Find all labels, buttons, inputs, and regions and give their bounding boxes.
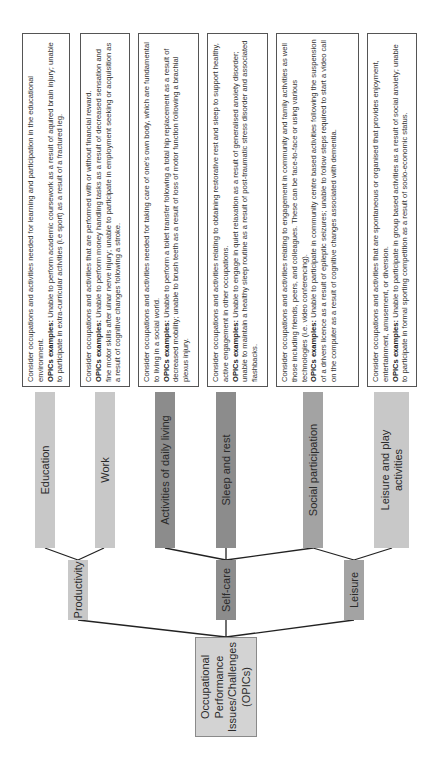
root-label: Occupational Performance Issues/Challeng… — [199, 641, 253, 733]
occupation-label: Sleep and rest — [220, 435, 233, 506]
link-productivity-education — [45, 548, 78, 560]
description-text: Consider occupations and activities rela… — [280, 43, 309, 382]
examples-label: OPICs examples: — [309, 320, 318, 382]
occupation-work: Work — [95, 392, 115, 548]
description-text: Consider occupations and activities need… — [142, 42, 161, 382]
link-leisure-social — [313, 548, 354, 560]
occupation-label: Activities of daily living — [159, 415, 172, 524]
occupation-sleep-rest: Sleep and rest — [216, 392, 236, 548]
examples-label: OPICs examples: — [391, 320, 400, 382]
description-box-work: Consider occupations and activities that… — [80, 33, 130, 387]
domain-productivity: Productivity — [68, 560, 88, 620]
occupation-label: Education — [39, 446, 52, 495]
examples-label: OPICs examples: — [162, 320, 171, 382]
link-root-productivity — [78, 620, 226, 637]
description-box-adl: Consider occupations and activities need… — [138, 33, 199, 387]
occupation-label: Work — [99, 457, 112, 482]
description-box-leisure-play: Consider occupations and activities that… — [367, 33, 417, 387]
link-leisure-play — [354, 548, 392, 560]
occupation-adl: Activities of daily living — [155, 392, 175, 548]
domain-label: Leisure — [348, 572, 361, 608]
description-box-education: Consider occupations and activities need… — [22, 33, 70, 387]
link-selfcare-social — [226, 548, 313, 560]
domain-leisure: Leisure — [344, 560, 364, 620]
description-box-social-participation: Consider occupations and activities rela… — [276, 33, 359, 387]
domain-label: Self-care — [220, 568, 233, 612]
description-text: Consider occupations and activities that… — [371, 60, 390, 382]
link-root-leisure — [226, 620, 354, 637]
occupation-label: Social participation — [307, 424, 320, 516]
occupation-leisure-play: Leisure and play activities — [374, 392, 409, 548]
domain-label: Productivity — [72, 562, 85, 619]
opics-diagram: Occupational Performance Issues/Challeng… — [0, 0, 430, 761]
description-text: Consider occupations and activities need… — [26, 76, 45, 382]
description-box-sleep-rest: Consider occupations and activities rela… — [207, 33, 268, 387]
examples-label: OPICs examples: — [46, 320, 55, 382]
occupation-education: Education — [35, 392, 55, 548]
link-selfcare-adl — [165, 548, 226, 560]
root-opics-box: Occupational Performance Issues/Challeng… — [195, 637, 257, 737]
link-productivity-work — [78, 548, 104, 560]
description-text: Consider occupations and activities rela… — [211, 43, 230, 382]
occupation-label: Leisure and play activities — [379, 415, 405, 525]
occupation-social-participation: Social participation — [303, 392, 323, 548]
examples-label: OPICs examples: — [231, 320, 240, 382]
description-text: Consider occupations and activities that… — [84, 90, 93, 382]
domain-self-care: Self-care — [216, 560, 236, 620]
examples-label: OPICs examples: — [94, 320, 103, 382]
